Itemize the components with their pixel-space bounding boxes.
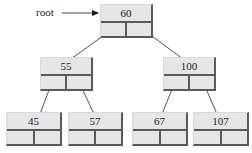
- right-pointer-cell: [127, 23, 151, 36]
- right-pointer-cell: [67, 76, 91, 89]
- tree-node-45: 45: [6, 112, 62, 146]
- root-label: root: [36, 6, 54, 18]
- node-value: 67: [133, 113, 186, 131]
- node-value: 57: [69, 113, 121, 131]
- left-pointer-cell: [164, 76, 190, 89]
- left-pointer-cell: [69, 131, 96, 144]
- right-pointer-cell: [161, 131, 187, 144]
- left-pointer-cell: [194, 131, 222, 144]
- right-pointer-cell: [96, 131, 121, 144]
- right-pointer-cell: [190, 76, 214, 89]
- left-pointer-cell: [133, 131, 161, 144]
- node-value: 107: [194, 113, 247, 131]
- tree-node-67: 67: [132, 112, 188, 146]
- node-value: 60: [101, 5, 151, 23]
- node-value: 45: [7, 113, 60, 131]
- tree-node-100: 100: [163, 57, 216, 91]
- tree-node-60: 60: [100, 4, 153, 38]
- right-pointer-cell: [35, 131, 61, 144]
- left-pointer-cell: [7, 131, 35, 144]
- tree-node-57: 57: [68, 112, 123, 146]
- node-value: 55: [41, 58, 91, 76]
- left-pointer-cell: [101, 23, 127, 36]
- tree-node-107: 107: [193, 112, 249, 146]
- tree-node-55: 55: [40, 57, 93, 91]
- left-pointer-cell: [41, 76, 67, 89]
- node-value: 100: [164, 58, 214, 76]
- right-pointer-cell: [222, 131, 248, 144]
